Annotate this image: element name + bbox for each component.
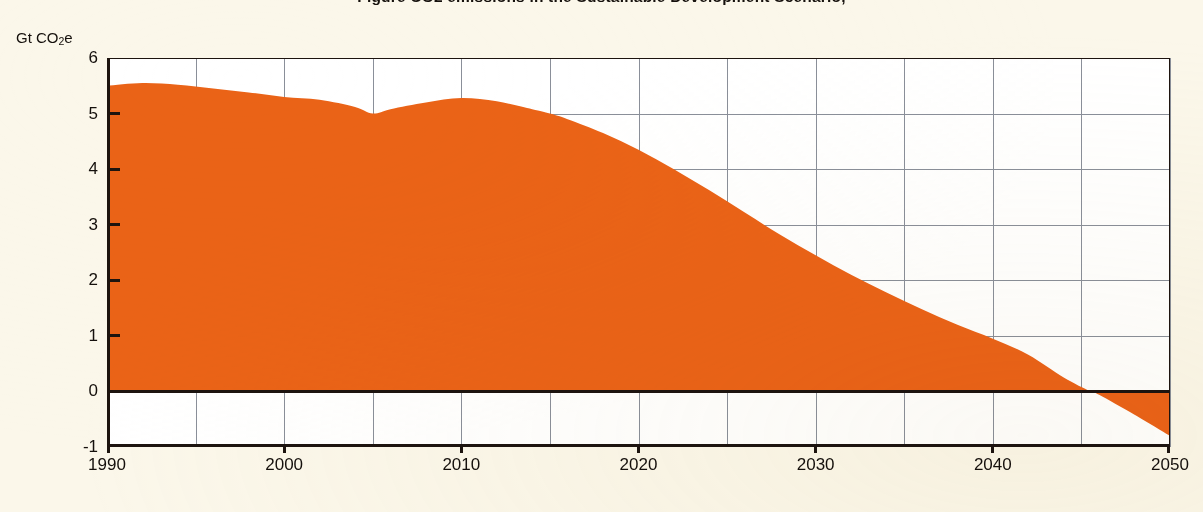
x-tick-2020: 2020 <box>620 455 658 475</box>
chart-title-clipped: Figure CO2 emissions in the Sustainable … <box>0 0 1203 8</box>
emissions-area-series <box>107 83 1170 436</box>
y-tick-6: 6 <box>60 49 98 66</box>
x-tick-2010: 2010 <box>442 455 480 475</box>
x-tick-1990: 1990 <box>88 455 126 475</box>
y-tick-2: 2 <box>60 271 98 288</box>
y-tick-0: 0 <box>60 382 98 399</box>
chart-title-text: Figure CO2 emissions in the Sustainable … <box>357 0 846 5</box>
y-tick-5: 5 <box>60 105 98 122</box>
area-chart-svg <box>107 58 1170 447</box>
chart-page: Figure CO2 emissions in the Sustainable … <box>0 0 1203 512</box>
y-tick-3: 3 <box>60 216 98 233</box>
y-tick-1: 1 <box>60 327 98 344</box>
x-tick-2050: 2050 <box>1151 455 1189 475</box>
x-tick-2040: 2040 <box>974 455 1012 475</box>
y-tick-neg1: -1 <box>60 438 98 455</box>
plot-area <box>107 58 1170 447</box>
y-axis-tick-labels: 6543210-1 <box>48 0 98 512</box>
x-tick-2000: 2000 <box>265 455 303 475</box>
y-tick-4: 4 <box>60 160 98 177</box>
x-tick-2030: 2030 <box>797 455 835 475</box>
x-axis-tick-labels: 1990200020102020203020402050 <box>0 455 1203 483</box>
